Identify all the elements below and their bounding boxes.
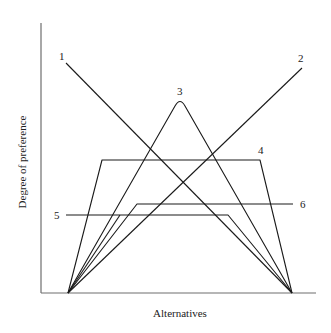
curve-label-5: 5	[54, 209, 60, 221]
curve-4	[68, 160, 292, 293]
curve-1	[66, 63, 292, 293]
curve-label-4: 4	[258, 144, 264, 156]
curve-label-3: 3	[177, 85, 183, 97]
curve-6	[68, 204, 293, 293]
curve-2	[68, 68, 302, 293]
curve-label-1: 1	[59, 50, 65, 62]
curve-label-6: 6	[300, 198, 306, 210]
curve-3	[68, 102, 292, 294]
curve-5	[66, 215, 292, 293]
curve-label-2: 2	[298, 52, 304, 64]
y-axis-title: Degree of preference	[16, 115, 28, 208]
preference-diagram: 1 2 3 4 5 6 Alternatives Degree of prefe…	[0, 0, 331, 333]
curve-5-rise	[68, 215, 120, 293]
x-axis-title: Alternatives	[153, 307, 207, 319]
